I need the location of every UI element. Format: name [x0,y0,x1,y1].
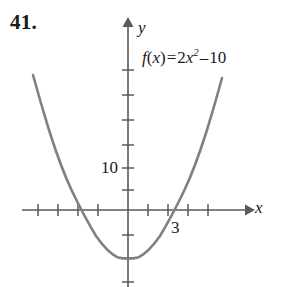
exponent: 2 [193,46,199,58]
coefficient: 2 [177,48,186,67]
x-axis-arrow-icon [245,205,255,216]
math-figure: 41. [0,0,282,287]
function-rparen: ) [160,48,166,67]
y-axis-arrow-icon [123,17,134,27]
x-axis-label: x [255,199,263,216]
parabola-graph [0,0,282,287]
function-argument: x [152,48,160,67]
y-axis-label: y [138,19,146,36]
y-axis-tick-label-10: 10 [101,159,118,176]
minus-sign: – [199,48,210,67]
constant-term: 10 [209,48,226,67]
function-equation-label: f(x)=2x2–10 [142,47,226,66]
equals-sign: = [166,48,178,67]
x-axis-tick-label-3: 3 [171,219,180,236]
